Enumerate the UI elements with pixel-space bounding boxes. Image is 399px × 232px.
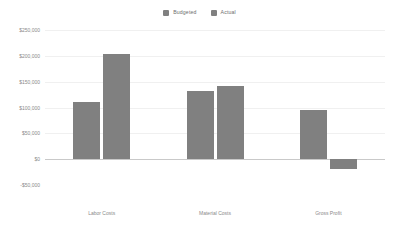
y-axis-tick-label: $150,000 [19,79,40,84]
legend-label-budgeted: Budgeted [173,10,196,15]
bar-chart: Budgeted Actual $250,000$200,000$150,000… [0,0,399,232]
bar-actual-gross-profit[interactable] [330,159,357,169]
y-axis-tick-label: $0 [34,157,40,162]
legend-swatch-actual [211,10,217,16]
gridline [45,82,385,83]
y-axis-tick-label: $100,000 [19,105,40,110]
bar-actual-labor-costs[interactable] [103,54,130,159]
bar-budgeted-material-costs[interactable] [187,91,214,159]
legend-item-actual[interactable]: Actual [211,10,236,16]
x-axis-tick-label: Gross Profit [315,211,341,216]
y-axis-tick-label: -$50,000 [20,183,40,188]
bar-budgeted-gross-profit[interactable] [300,110,327,159]
y-axis-tick-label: $200,000 [19,53,40,58]
legend-label-actual: Actual [221,10,236,15]
y-axis-tick-label: $50,000 [22,131,40,136]
bar-budgeted-labor-costs[interactable] [73,102,100,159]
y-axis-tick-label: $250,000 [19,28,40,33]
x-axis-tick-label: Material Costs [199,211,231,216]
gridline [45,30,385,31]
bar-actual-material-costs[interactable] [217,86,244,159]
plot-area: $250,000$200,000$150,000$100,000$50,000$… [45,30,385,185]
chart-legend: Budgeted Actual [0,10,399,16]
legend-swatch-budgeted [163,10,169,16]
gridline [45,56,385,57]
legend-item-budgeted[interactable]: Budgeted [163,10,196,16]
x-axis-tick-label: Labor Costs [88,211,115,216]
